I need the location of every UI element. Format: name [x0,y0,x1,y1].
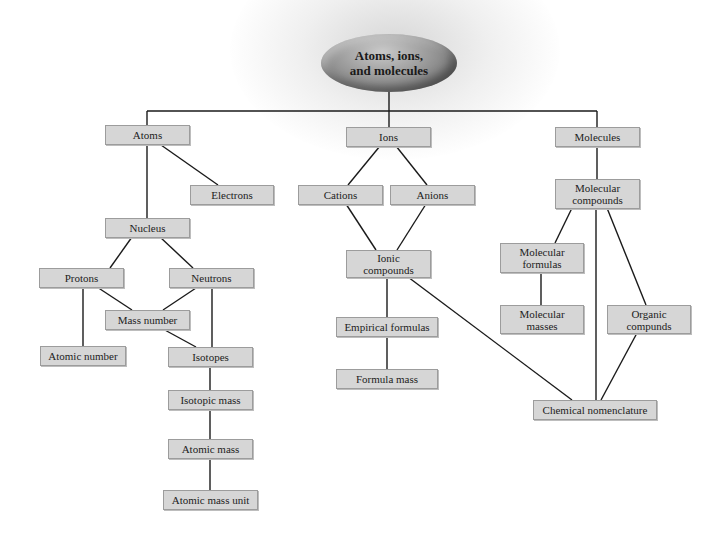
root-node: Atoms, ions, and molecules [321,34,457,92]
node-isotopic-mass: Isotopic mass [168,390,253,410]
node-molecular-masses: Molecular masses [500,305,584,334]
node-ions: Ions [346,127,431,147]
node-formula-mass: Formula mass [336,369,438,389]
node-chemical-nomenclature: Chemical nomenclature [533,400,657,420]
node-neutrons: Neutrons [169,268,254,288]
node-anions: Anions [390,185,475,205]
node-molecular-formulas: Molecular formulas [500,243,584,273]
node-isotopes: Isotopes [168,347,253,367]
node-atomic-number: Atomic number [40,346,126,366]
node-protons: Protons [39,268,124,288]
node-organic-compounds: Organic compunds [607,305,691,334]
node-cations: Cations [298,185,383,205]
node-ionic-compounds: Ionic compounds [346,250,431,278]
root-label: Atoms, ions, and molecules [350,48,428,78]
node-empirical-formulas: Empirical formulas [336,317,438,337]
node-electrons: Electrons [190,185,274,205]
node-atoms: Atoms [105,125,190,145]
node-nucleus: Nucleus [105,218,190,238]
node-atomic-mass-unit: Atomic mass unit [163,490,258,510]
node-mass-number: Mass number [105,310,190,330]
node-atomic-mass: Atomic mass [168,439,253,459]
node-molecules: Molecules [555,127,640,147]
node-molecular-compounds: Molecular compounds [555,179,640,209]
